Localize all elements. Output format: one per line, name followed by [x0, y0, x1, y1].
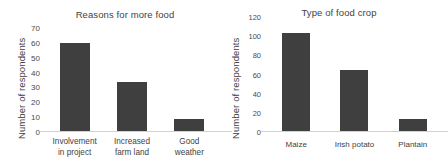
- x-axis-category-label: Increasedfarm land: [103, 136, 160, 158]
- chart-reasons-for-more-food: Reasons for more food Number of responde…: [0, 0, 222, 167]
- y-axis-title: Number of respondents: [230, 38, 241, 139]
- plot-area: 020406080100120: [267, 17, 442, 132]
- bar: [399, 119, 427, 132]
- chart-title: Reasons for more food: [50, 9, 200, 20]
- bar: [340, 70, 368, 132]
- y-axis-tick-label: 0: [36, 128, 40, 137]
- x-axis-category-label: Maize: [267, 139, 325, 150]
- bar-slot: [325, 17, 383, 132]
- bar-slot: [46, 28, 103, 132]
- y-axis-tick-label: 60: [253, 70, 261, 79]
- plot-area: 010203040506070: [46, 28, 218, 132]
- bar-slot: [267, 17, 325, 132]
- y-axis-title: Number of respondents: [16, 38, 27, 139]
- bar: [174, 119, 204, 132]
- x-axis-category-label: Goodweather: [161, 136, 218, 158]
- bar-series: [46, 28, 218, 132]
- two-chart-figure: Reasons for more food Number of responde…: [0, 0, 448, 167]
- x-axis-category-label: Irish potato: [325, 139, 383, 150]
- bar-slot: [161, 28, 218, 132]
- y-axis-tick-label: 70: [31, 24, 40, 33]
- y-axis-tick-label: 10: [31, 113, 40, 122]
- chart-type-of-food-crop: Type of food crop Number of respondents …: [222, 0, 448, 167]
- y-axis-tick-label: 40: [253, 89, 261, 98]
- x-axis-category-label: Plantain: [384, 139, 442, 150]
- bar-series: [267, 17, 442, 132]
- bar: [282, 33, 310, 132]
- y-axis-tick-label: 20: [31, 98, 40, 107]
- y-axis-tick-label: 40: [31, 68, 40, 77]
- y-axis-tick-label: 80: [253, 51, 261, 60]
- y-axis-tick-label: 120: [248, 13, 261, 22]
- bar: [60, 43, 90, 132]
- y-axis-tick-label: 100: [248, 32, 261, 41]
- x-axis-category-labels: MaizeIrish potatoPlantain: [267, 139, 442, 150]
- x-axis-category-label: Involvementin project: [46, 136, 103, 158]
- y-axis-tick-label: 0: [257, 128, 261, 137]
- y-axis-tick-label: 50: [31, 53, 40, 62]
- x-axis-line: [261, 131, 448, 132]
- bar: [117, 82, 147, 133]
- y-axis-tick-label: 60: [31, 38, 40, 47]
- y-axis-tick-label: 30: [31, 83, 40, 92]
- x-axis-line: [40, 131, 232, 132]
- bar-slot: [384, 17, 442, 132]
- bar-slot: [103, 28, 160, 132]
- x-axis-category-labels: Involvementin projectIncreasedfarm landG…: [46, 136, 218, 158]
- y-axis-tick-label: 20: [253, 108, 261, 117]
